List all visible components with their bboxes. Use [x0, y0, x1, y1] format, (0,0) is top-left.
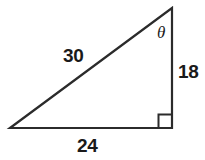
theta-angle-label: θ: [157, 24, 165, 41]
right-triangle-figure: 30 18 24 θ: [0, 0, 205, 160]
triangle-outline: [10, 8, 172, 128]
triangle-drawing: [0, 0, 205, 160]
vertical-leg-length-label: 18: [178, 62, 199, 81]
hypotenuse-length-label: 30: [63, 46, 84, 65]
base-leg-length-label: 24: [77, 136, 98, 155]
